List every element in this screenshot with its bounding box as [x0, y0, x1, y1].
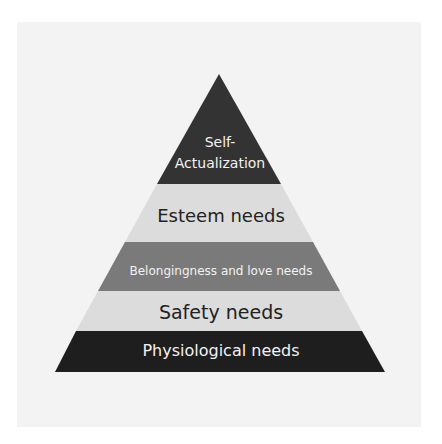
label-safety: Safety needs [0, 301, 442, 323]
label-self-line2: Actualization [0, 155, 441, 171]
label-belongingness: Belongingness and love needs [0, 264, 442, 278]
label-esteem: Esteem needs [0, 205, 442, 226]
label-physiological: Physiological needs [0, 341, 442, 360]
label-self-line1: Self- [0, 134, 441, 150]
